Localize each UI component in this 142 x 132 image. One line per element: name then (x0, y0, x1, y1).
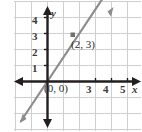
data-point-marker (71, 33, 76, 38)
y-axis-title: y (51, 8, 56, 19)
graph-canvas (0, 0, 142, 132)
coordinate-graph-figure: 4 3 2 1 3 4 5 y x (0, 0) (2, 3) (0, 0, 142, 132)
data-point-label: (2, 3) (71, 38, 95, 50)
origin-point-label: (0, 0) (44, 82, 68, 94)
y-axis-tick-label-3: 3 (32, 31, 38, 42)
y-axis-tick-label-4: 4 (32, 15, 38, 26)
x-axis-tick-label-5: 5 (120, 84, 126, 95)
x-axis-tick-label-3: 3 (86, 84, 92, 95)
x-axis-title: x (132, 84, 138, 95)
x-axis-tick-label-4: 4 (103, 84, 109, 95)
y-axis-tick-label-2: 2 (32, 47, 38, 58)
y-axis-tick-label-1: 1 (32, 63, 38, 74)
